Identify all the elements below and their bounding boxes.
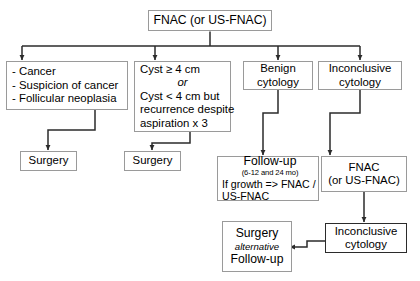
node-followup-interval: (6-12 and 24 mo) [222, 169, 318, 178]
node-surgery-alternative-followup[interactable]: Surgery alternative Follow-up [222, 221, 292, 272]
node-benign-line2: cytology [244, 76, 312, 89]
node-cyst-criteria[interactable]: Cyst ≥ 4 cm or Cyst < 4 cm but recurrenc… [134, 61, 231, 132]
node-fnac-repeat-line2: (or US-FNAC) [322, 174, 406, 187]
node-inconclusive2-line1: Inconclusive [326, 225, 406, 238]
node-surgery-malignant[interactable]: Surgery [20, 151, 77, 171]
node-surgery-alt-line1: Surgery [223, 226, 291, 240]
node-cyst-line5: aspiration x 3 [140, 117, 230, 130]
node-surgery-left-line1: Surgery [21, 154, 76, 167]
node-inconclusive-line1: Inconclusive [319, 62, 401, 75]
flowchart-canvas: FNAC (or US-FNAC) - Cancer - Suspicion o… [0, 0, 420, 281]
node-benign-line1: Benign [244, 62, 312, 75]
edge-cyst-to-surgery [152, 132, 190, 150]
node-malignant-line1: - Cancer [12, 65, 127, 78]
node-fnac-root-line1: FNAC (or US-FNAC) [149, 13, 271, 27]
node-fnac-root[interactable]: FNAC (or US-FNAC) [148, 10, 272, 31]
edge-inconclusive-to-fnac [330, 90, 360, 155]
node-cyst-line2: or [140, 76, 230, 89]
node-inconclusive-cytology-2[interactable]: Inconclusive cytology [325, 223, 407, 253]
node-benign-cytology[interactable]: Benign cytology [243, 61, 313, 90]
node-malignant-findings[interactable]: - Cancer - Suspicion of cancer - Follicu… [6, 61, 128, 110]
node-malignant-line2: - Suspicion of cancer [12, 79, 127, 92]
node-inconclusive-cytology[interactable]: Inconclusive cytology [318, 61, 402, 90]
edge-inconclusive2-to-surgery-alt [290, 241, 325, 247]
node-cyst-line3: Cyst < 4 cm but [140, 90, 230, 103]
node-surgery-alt-line3: Follow-up [223, 252, 291, 266]
node-malignant-line3: - Follicular neoplasia [12, 92, 127, 105]
node-cyst-line1: Cyst ≥ 4 cm [140, 63, 230, 76]
node-cyst-line4: recurrence despite [140, 103, 230, 116]
node-surgery-cyst[interactable]: Surgery [124, 151, 181, 171]
node-surgery-cyst-line1: Surgery [125, 154, 180, 167]
edge-malignant-to-surgery [48, 110, 95, 150]
node-fnac-repeat-line1: FNAC [322, 161, 406, 174]
node-followup-line4: US-FNAC [222, 190, 269, 203]
node-followup-line1: Follow-up [222, 154, 318, 168]
node-inconclusive2-line2: cytology [326, 238, 406, 251]
node-followup[interactable]: Follow-up (6-12 and 24 mo) If growth => … [217, 156, 319, 201]
node-fnac-repeat[interactable]: FNAC (or US-FNAC) [321, 156, 407, 192]
node-followup-line3: If growth => FNAC / [222, 178, 316, 191]
node-surgery-alt-alternative: alternative [223, 241, 291, 252]
node-inconclusive-line2: cytology [319, 76, 401, 89]
edge-benign-to-followup [263, 90, 278, 155]
